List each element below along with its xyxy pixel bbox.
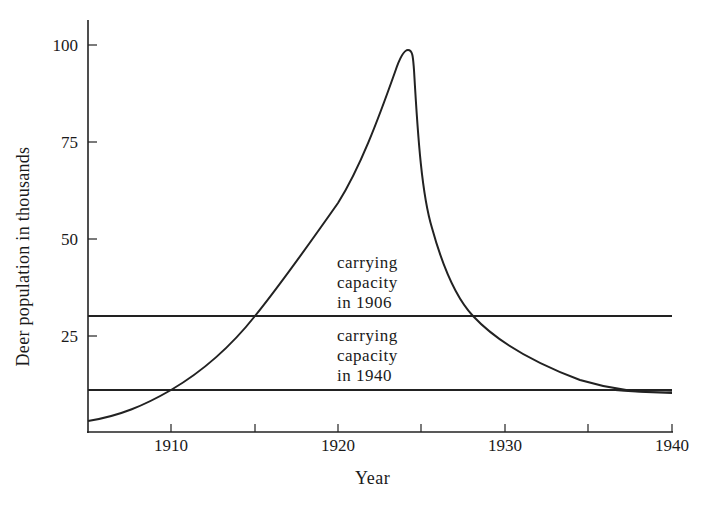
annotation-carrying-capacity-1906: carrying capacity in 1906 (337, 253, 398, 313)
x-tick-label-1940: 1940 (642, 437, 702, 454)
annotation-carrying-capacity-1940: carrying capacity in 1940 (337, 326, 398, 386)
y-axis-title: Deer population in thousands (13, 122, 34, 392)
x-tick-label-1920: 1920 (308, 437, 368, 454)
annotation-line: in 1940 (337, 366, 398, 386)
annotation-line: capacity (337, 346, 398, 366)
x-axis-ticks (171, 424, 672, 432)
annotation-line: in 1906 (337, 293, 398, 313)
x-tick-label-1910: 1910 (141, 437, 201, 454)
annotation-line: capacity (337, 273, 398, 293)
y-tick-label-100: 100 (18, 37, 78, 54)
y-axis-ticks (88, 45, 97, 336)
x-axis-title: Year (355, 469, 390, 487)
annotation-line: carrying (337, 253, 398, 273)
annotation-line: carrying (337, 326, 398, 346)
x-tick-label-1930: 1930 (475, 437, 535, 454)
